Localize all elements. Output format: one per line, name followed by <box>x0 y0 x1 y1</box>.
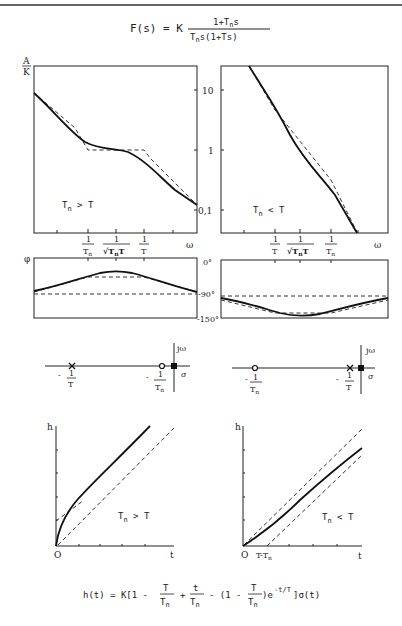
svg-text:-: - <box>58 371 61 380</box>
magnitude-axis-label: A K <box>22 56 31 77</box>
formula-numerator: 1+Tns <box>213 17 239 29</box>
svg-text:T: T <box>68 380 74 389</box>
freq-labels-left: 1 Tn 1 √TnT 1 T ω <box>82 235 193 257</box>
svg-text:t: t <box>170 550 174 560</box>
formula-denominator: Tns(1+Ts) <box>190 32 238 44</box>
svg-text:1: 1 <box>114 235 119 244</box>
phase-y-labels: 0° -90° -150° <box>197 258 219 324</box>
phase-plot-left <box>34 258 197 318</box>
svg-text:O: O <box>241 550 248 560</box>
svg-text:Tn < T: Tn < T <box>322 512 354 525</box>
svg-text:Tn: Tn <box>190 597 200 609</box>
y-tick-10: 10 <box>202 86 214 96</box>
y-tick-1: 1 <box>208 146 214 156</box>
svg-text:-90°: -90° <box>198 290 215 299</box>
condition-right: Tn < T <box>253 205 285 218</box>
y-tick-0-1: 0,1 <box>198 206 212 216</box>
svg-text:jω: jω <box>365 346 375 355</box>
svg-text:1: 1 <box>347 371 352 380</box>
svg-text:h: h <box>47 422 53 432</box>
freq-labels-right: 1 T 1 √TnT 1 Tn ω <box>270 235 381 257</box>
origin-pole-right <box>358 365 364 371</box>
asymptote-origin-right <box>244 429 362 545</box>
svg-text:1: 1 <box>253 373 258 382</box>
asymptote-offset-right <box>267 455 362 546</box>
svg-text:t: t <box>358 551 362 561</box>
magnitude-curve-left <box>34 93 197 205</box>
svg-text:O: O <box>54 550 61 560</box>
svg-text:T: T <box>272 247 278 256</box>
svg-text:jω: jω <box>176 344 186 353</box>
svg-text:Tn: Tn <box>326 247 335 257</box>
svg-text:- (1 -: - (1 - <box>209 590 242 600</box>
svg-text:1: 1 <box>69 369 74 378</box>
svg-text:h(t) = K[1 -: h(t) = K[1 - <box>83 590 148 600</box>
svg-text:T: T <box>163 583 169 593</box>
svg-text:-t/T: -t/T <box>274 586 292 594</box>
asymptote-origin-left <box>58 428 174 545</box>
svg-text:)e: )e <box>262 590 273 600</box>
phase-asymptote-right <box>221 300 388 313</box>
svg-text:Tn: Tn <box>155 383 164 393</box>
a-label: A <box>22 56 30 66</box>
zero-marker-right <box>253 366 258 371</box>
omega-label-right: ω <box>374 240 381 250</box>
svg-text:-: - <box>245 375 248 384</box>
pole-zero-plot-left: jω σ - 1 T - 1 Tn <box>45 343 190 393</box>
magnitude-plot-right: Tn < T <box>221 66 388 233</box>
pi-controller-diagram: F(s) = K 1+Tns Tns(1+Ts) A K Tn > T 10 1 <box>0 0 402 626</box>
step-response-formula: h(t) = K[1 - T Tn + t Tn - (1 - T Tn )e … <box>83 583 320 609</box>
svg-text:+: + <box>180 590 186 600</box>
svg-text:Tn: Tn <box>250 385 259 395</box>
svg-text:t: t <box>193 583 198 593</box>
svg-text:T: T <box>346 383 352 392</box>
step-curve-left <box>56 426 150 546</box>
svg-text:]σ(t): ]σ(t) <box>293 590 320 600</box>
pole-zero-plot-right: jω σ - 1 Tn - 1 T <box>232 345 375 395</box>
svg-text:1: 1 <box>273 235 278 244</box>
svg-text:1: 1 <box>298 235 303 244</box>
svg-text:σ: σ <box>181 370 187 379</box>
svg-text:σ: σ <box>368 372 374 381</box>
svg-text:Tn > T: Tn > T <box>118 511 150 524</box>
svg-text:h: h <box>235 422 241 432</box>
svg-text:√TnT: √TnT <box>103 246 125 257</box>
svg-text:Tn: Tn <box>83 247 92 257</box>
svg-text:1: 1 <box>142 235 147 244</box>
phase-plot-right <box>221 260 388 318</box>
svg-text:T: T <box>251 583 257 593</box>
svg-text:Tn: Tn <box>160 597 170 609</box>
step-response-right: h O t T-Tn Tn < T <box>235 422 362 561</box>
svg-text:T-Tn: T-Tn <box>256 551 272 561</box>
step-curve-right <box>243 448 362 546</box>
phi-label: φ <box>24 254 30 264</box>
svg-text:-150°: -150° <box>197 315 219 324</box>
svg-text:1: 1 <box>158 370 163 379</box>
omega-label-left: ω <box>186 240 193 250</box>
svg-text:√TnT: √TnT <box>287 246 309 257</box>
k-label: K <box>23 67 30 77</box>
magnitude-plot-left: Tn > T <box>34 66 197 233</box>
svg-text:-: - <box>146 373 149 382</box>
step-response-left: h O t Tn > T <box>47 422 174 560</box>
svg-text:1: 1 <box>86 235 91 244</box>
svg-text:-: - <box>336 375 339 384</box>
transfer-function-formula: F(s) = K 1+Tns Tns(1+Ts) <box>130 17 270 44</box>
svg-text:1: 1 <box>329 235 334 244</box>
condition-left: Tn > T <box>62 200 94 213</box>
zero-marker-left <box>160 364 165 369</box>
phase-curve-left <box>34 272 197 293</box>
svg-text:T: T <box>141 247 147 256</box>
formula-lhs: F(s) = K <box>130 22 183 35</box>
origin-pole-left <box>171 363 177 369</box>
svg-text:Tn: Tn <box>248 597 258 609</box>
svg-text:0°: 0° <box>203 258 212 267</box>
